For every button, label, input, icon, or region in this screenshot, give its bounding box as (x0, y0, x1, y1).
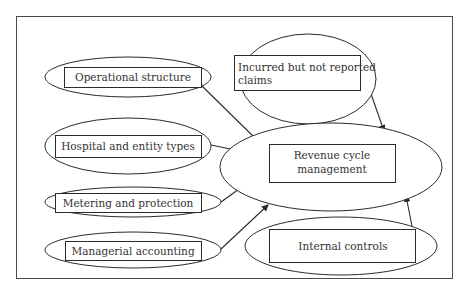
node-label-line-2: claims (238, 74, 272, 86)
node-incurred-not-reported-claims: Incurred but not reported claims (235, 34, 377, 124)
node-label: Metering and protection (63, 197, 194, 209)
node-label: Operational structure (75, 71, 191, 83)
node-managerial-accounting: Managerial accounting (45, 232, 221, 268)
node-label: Internal controls (298, 240, 387, 252)
node-hospital-entity-types: Hospital and entity types (45, 118, 211, 174)
node-label-line-2: management (297, 163, 367, 175)
node-label: Hospital and entity types (61, 140, 195, 152)
revenue-cycle-diagram: Operational structure Hospital and entit… (0, 0, 469, 297)
node-label: Incurred but not reported (238, 61, 376, 73)
node-operational-structure: Operational structure (45, 57, 211, 97)
edge-ibnr-revenue (370, 91, 384, 131)
node-revenue-cycle-management: Revenue cycle management (220, 123, 442, 211)
node-label: Managerial accounting (71, 245, 195, 257)
node-metering-protection: Metering and protection (45, 187, 221, 217)
node-label: Revenue cycle (294, 149, 371, 161)
edge-internal-revenue (406, 196, 412, 226)
node-internal-controls: Internal controls (245, 217, 437, 275)
